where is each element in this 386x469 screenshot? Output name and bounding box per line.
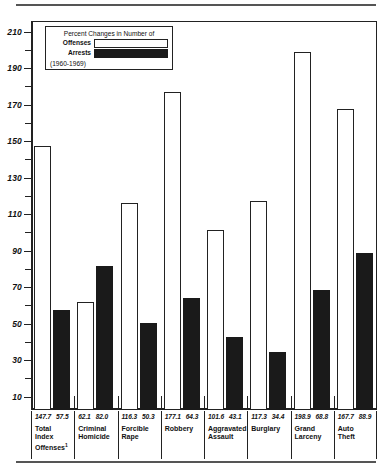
legend-years: (1960-1969)	[50, 61, 168, 68]
y-axis-tick-label: 90	[12, 247, 22, 256]
value-offenses: 62.1	[78, 413, 90, 420]
y-axis: 2101901701501301109070503010	[0, 21, 31, 410]
value-offenses: 101.6	[208, 413, 224, 420]
y-axis-tick-label: 210	[7, 28, 22, 37]
x-axis-category-cell: 116.350.3ForcibleRape	[118, 411, 161, 459]
bar-offenses	[207, 230, 224, 410]
y-axis-tick-label: 190	[7, 64, 22, 73]
x-axis-category-cell: 117.334.4Burglary	[247, 411, 290, 459]
y-axis-tick-mark	[24, 105, 31, 106]
group-separator	[161, 396, 162, 410]
footnote-marker: 1	[65, 442, 68, 448]
category-values: 117.334.4	[251, 411, 290, 421]
category-name-line: Offenses1	[35, 442, 74, 453]
value-offenses: 116.3	[122, 413, 138, 420]
y-axis-tick-mark	[24, 141, 31, 142]
bar-arrests	[226, 337, 243, 410]
category-values: 167.788.9	[338, 411, 376, 421]
category-name-line: Theft	[338, 433, 376, 442]
value-offenses: 147.7	[35, 413, 51, 420]
value-arrests: 57.5	[56, 413, 68, 420]
y-axis-tick-label: 110	[8, 210, 22, 219]
legend-row-arrests: Arrests	[50, 49, 168, 58]
bar-arrests	[53, 310, 70, 410]
bar-arrests	[313, 290, 330, 410]
category-values: 177.164.3	[165, 411, 204, 421]
legend-swatch-arrests	[94, 49, 168, 58]
category-name: CriminalHomicide	[78, 421, 117, 443]
group-separator	[291, 396, 292, 410]
category-name-line: Criminal	[78, 425, 117, 434]
chart-legend: Percent Changes in Number of Offenses Ar…	[45, 26, 173, 70]
x-axis-category-cell: 198.968.8GrandLarceny	[291, 411, 334, 459]
legend-title: Percent Changes in Number of	[50, 30, 168, 37]
y-axis-tick-mark	[24, 32, 31, 33]
y-axis-tick-mark	[24, 214, 31, 215]
legend-label-offenses: Offenses	[50, 40, 94, 47]
bar-offenses	[77, 302, 94, 410]
category-name-line: Robbery	[165, 425, 204, 434]
category-name: GrandLarceny	[295, 421, 334, 443]
value-arrests: 68.8	[316, 413, 328, 420]
y-axis-tick-label: 50	[12, 320, 22, 329]
bar-arrests	[269, 352, 286, 410]
category-name-line: Aggravated	[208, 425, 247, 434]
y-axis-tick-mark	[24, 287, 31, 288]
category-name-line: Forcible	[122, 425, 161, 434]
category-name: AggravatedAssault	[208, 421, 247, 443]
y-axis-tick-label: 150	[7, 137, 22, 146]
y-axis-tick-label: 70	[12, 283, 22, 292]
y-axis-tick-mark	[24, 178, 31, 179]
x-axis-category-cell: 147.757.5TotalIndexOffenses1	[31, 411, 74, 459]
top-divider-rule	[16, 4, 376, 6]
category-name: Robbery	[165, 421, 204, 434]
bar-arrests	[356, 253, 373, 410]
value-offenses: 167.7	[338, 413, 354, 420]
group-separator	[334, 396, 335, 410]
bar-arrests	[96, 266, 113, 410]
x-axis-label-strip: 147.757.5TotalIndexOffenses162.182.0Crim…	[31, 411, 377, 459]
bar-offenses	[337, 109, 354, 410]
bottom-divider-rule	[16, 461, 376, 463]
y-axis-tick-mark	[24, 251, 31, 252]
bars-layer	[31, 21, 377, 410]
bar-arrests	[183, 298, 200, 410]
y-axis-tick-mark	[24, 360, 31, 361]
x-axis-category-cell: 177.164.3Robbery	[161, 411, 204, 459]
value-arrests: 82.0	[96, 413, 108, 420]
value-offenses: 198.9	[295, 413, 311, 420]
bar-offenses	[294, 52, 311, 410]
category-values: 101.643.1	[208, 411, 247, 421]
y-axis-tick-label: 30	[12, 356, 22, 365]
legend-swatch-offenses	[94, 39, 168, 48]
category-name: AutoTheft	[338, 421, 376, 443]
category-name: TotalIndexOffenses1	[35, 421, 74, 454]
value-arrests: 88.9	[359, 413, 371, 420]
x-axis-category-cell: 101.643.1AggravatedAssault	[204, 411, 247, 459]
y-axis-tick-label: 130	[7, 174, 22, 183]
y-axis-tick-mark	[24, 397, 31, 398]
legend-label-arrests: Arrests	[50, 50, 94, 57]
category-values: 198.968.8	[295, 411, 334, 421]
category-name-line: Assault	[208, 433, 247, 442]
bar-offenses	[250, 201, 267, 410]
category-values: 62.182.0	[78, 411, 117, 421]
bar-offenses	[164, 92, 181, 410]
value-arrests: 64.3	[186, 413, 198, 420]
value-offenses: 177.1	[165, 413, 181, 420]
category-name-line: Larceny	[295, 433, 334, 442]
category-name-line: Index	[35, 433, 74, 442]
category-name-line: Burglary	[251, 425, 290, 434]
category-name: ForcibleRape	[122, 421, 161, 443]
category-name-line: Grand	[295, 425, 334, 434]
bar-offenses	[34, 146, 51, 410]
bar-offenses	[121, 203, 138, 410]
group-separator	[247, 396, 248, 410]
group-separator	[74, 396, 75, 410]
bar-arrests	[140, 323, 157, 410]
x-axis-category-cell: 167.788.9AutoTheft	[334, 411, 377, 459]
y-axis-tick-label: 10	[12, 393, 22, 402]
category-values: 116.350.3	[122, 411, 161, 421]
category-name: Burglary	[251, 421, 290, 434]
category-values: 147.757.5	[35, 411, 74, 421]
